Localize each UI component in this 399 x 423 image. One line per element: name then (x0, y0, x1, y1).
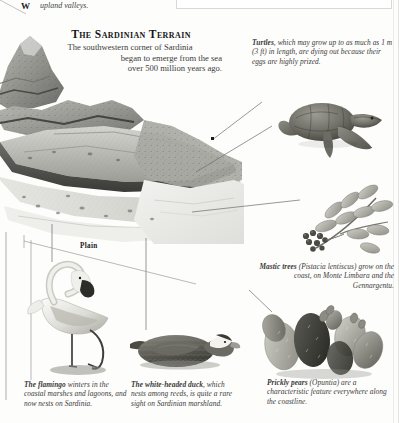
caption-flamingo: The flamingo winters in the coastal mars… (24, 380, 128, 408)
caption-mastic: Mastic trees (Pistacia lentiscus) grow o… (252, 262, 394, 290)
caption-flamingo-lead: The flamingo (24, 380, 66, 389)
subtitle-line-2: began to emerge from the sea (38, 53, 222, 64)
scan-frame-remnant (176, 0, 392, 9)
page-fragment-glyph: W (21, 1, 29, 11)
mastic-branch-illustration (296, 182, 396, 260)
document-page: W upland valleys. The Sardinian Terrain … (0, 0, 399, 423)
page-title: The Sardinian Terrain (38, 28, 224, 41)
caption-turtle-body: , which may grow up to as much as 1 m (3… (252, 38, 392, 66)
subtitle-line-1: The southwestern corner of Sardinia (38, 42, 222, 53)
caption-mastic-body: (Pistacia lentiscus) grow on the coast, … (294, 262, 394, 290)
subtitle-line-3: over 500 million years ago. (38, 63, 222, 74)
white-headed-duck-illustration (128, 318, 242, 378)
flamingo-illustration (24, 258, 130, 378)
page-fragment-text: upland valleys. (40, 1, 150, 11)
caption-duck: The white-headed duck, which nests among… (131, 380, 241, 408)
title-block: The Sardinian Terrain The southwestern c… (38, 28, 224, 74)
caption-mastic-lead: Mastic trees (259, 262, 296, 271)
turtle-illustration (276, 92, 388, 162)
caption-turtle: Turtles, which may grow up to as much as… (252, 38, 394, 66)
prickly-pear-illustration (258, 302, 390, 382)
caption-prickly-lead: Prickly pears (267, 378, 308, 387)
caption-duck-lead: The white-headed duck (131, 380, 203, 389)
diagram-label-plain: Plain (80, 242, 97, 250)
caption-prickly-pear: Prickly pears (Opuntia) are a characteri… (267, 378, 387, 406)
page-subtitle: The southwestern corner of Sardinia bega… (38, 42, 224, 74)
caption-turtle-lead: Turtles (252, 38, 274, 47)
